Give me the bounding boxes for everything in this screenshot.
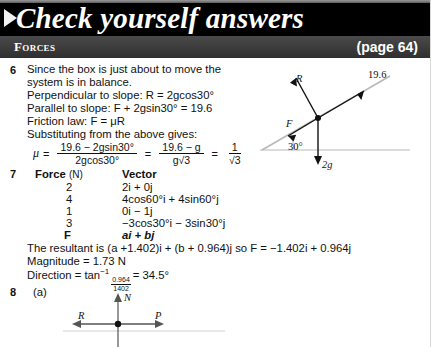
q6-line-2: system is in balance. bbox=[27, 76, 132, 88]
q6-perpendicular-equation: Perpendicular to slope: R = 2gcos30° bbox=[27, 89, 214, 101]
q7-magnitude-line: Magnitude = 1.73 N bbox=[27, 255, 126, 267]
fraction-1-numerator: 19.6 − 2gsin30° bbox=[57, 141, 136, 154]
table-row-force-3: 3 bbox=[66, 217, 72, 229]
fraction-2-numerator: 19.6 − g bbox=[159, 141, 203, 154]
table-row-force-4: F bbox=[64, 229, 71, 241]
table-header-vector: Vector bbox=[122, 168, 157, 180]
resistance-label: R bbox=[78, 310, 84, 321]
table-header-force-text: Force bbox=[35, 168, 66, 180]
weight-label: 2g bbox=[322, 159, 333, 170]
inclined-plane-diagram bbox=[250, 58, 431, 168]
push-force-label: P bbox=[155, 310, 161, 321]
table-row-force-1: 4 bbox=[66, 193, 72, 205]
table-header-force: Force (N) bbox=[35, 168, 83, 180]
textbook-page: Check yourself answers Forces (page 64) … bbox=[0, 0, 431, 347]
q6-mu-formula: μ = 19.6 − 2gsin30° 2gcos30° = 19.6 − g … bbox=[33, 141, 248, 166]
table-row-force-0: 2 bbox=[66, 181, 72, 193]
q6-friction-law: Friction law: F = μR bbox=[27, 115, 125, 127]
normal-force-label: R bbox=[296, 73, 302, 84]
question-number-7: 7 bbox=[10, 168, 16, 180]
page-reference: (page 64) bbox=[357, 37, 418, 57]
q7-direction-numerator: 0.964 bbox=[111, 276, 131, 285]
fraction-3-numerator: 1 bbox=[229, 141, 241, 154]
question-number-8: 8 bbox=[10, 286, 16, 298]
table-row-vector-4: ai + bj bbox=[122, 229, 154, 241]
fraction-1-denominator: 2gcos30° bbox=[72, 154, 122, 166]
table-row-force-2: 1 bbox=[66, 205, 72, 217]
table-row-vector-2: 0i − 1j bbox=[122, 205, 152, 217]
q7-direction-prefix: Direction = tan bbox=[27, 269, 100, 281]
fraction-3-denominator: √3 bbox=[226, 154, 244, 166]
q7-direction-fraction: 0.9641402 bbox=[111, 276, 131, 293]
answers-body: 6 Since the box is just about to move th… bbox=[0, 58, 431, 347]
q8-part-label: (a) bbox=[33, 286, 47, 298]
q6-substituting-text: Substituting from the above gives: bbox=[27, 128, 197, 140]
q6-line-1: Since the box is just about to move the bbox=[27, 63, 221, 75]
question-number-6: 6 bbox=[10, 64, 16, 76]
table-header-force-unit: (N) bbox=[69, 169, 83, 180]
slope-angle-label: 30° bbox=[288, 141, 303, 152]
equals-sign-2: = bbox=[145, 148, 151, 160]
fraction-1: 19.6 − 2gsin30° 2gcos30° bbox=[57, 141, 136, 166]
table-row-vector-3: −3cos30°i − 3sin30°j bbox=[122, 217, 225, 229]
q7-direction-exponent: −1 bbox=[100, 267, 109, 276]
q7-direction-line: Direction = tan−10.9641402= 34.5° bbox=[27, 267, 169, 293]
q7-resultant-line: The resultant is (a +1.402)i + (b + 0.96… bbox=[27, 242, 351, 254]
fraction-2: 19.6 − g g√3 bbox=[159, 141, 203, 166]
fraction-3: 1 √3 bbox=[226, 141, 244, 166]
friction-force-label: F bbox=[286, 118, 292, 129]
table-row-vector-1: 4cos60°i + 4sin60°j bbox=[122, 193, 219, 205]
equals-sign-1: = bbox=[43, 148, 49, 160]
q7-direction-result: = 34.5° bbox=[133, 269, 169, 281]
equals-sign-3: = bbox=[212, 148, 218, 160]
page-title: Check yourself answers bbox=[16, 0, 304, 36]
mu-symbol: μ bbox=[33, 146, 39, 161]
fraction-2-denominator: g√3 bbox=[170, 154, 193, 166]
section-title: Forces bbox=[14, 37, 55, 57]
applied-force-label: 19.6 bbox=[368, 69, 386, 80]
normal-reaction-label: N bbox=[124, 292, 131, 303]
q6-parallel-equation: Parallel to slope: F + 2gsin30° = 19.6 bbox=[27, 102, 212, 114]
table-row-vector-0: 2i + 0j bbox=[122, 181, 152, 193]
